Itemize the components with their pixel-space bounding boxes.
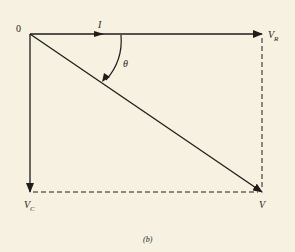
vc-label: VC — [24, 199, 35, 213]
vc-label-sub: C — [30, 205, 35, 213]
figure-caption: (b) — [143, 235, 153, 244]
phasor-diagram: 0 I θ VR VC V (b) — [0, 0, 295, 252]
vr-label-sub: R — [273, 35, 279, 43]
current-label: I — [97, 19, 102, 30]
v-vector — [30, 34, 262, 192]
v-label: V — [259, 199, 267, 210]
theta-arc — [106, 35, 121, 80]
theta-arrow-icon — [102, 73, 110, 82]
theta-label: θ — [123, 58, 128, 69]
current-arrow-icon — [94, 31, 104, 37]
vr-label: VR — [268, 29, 279, 43]
origin-label: 0 — [16, 23, 21, 34]
